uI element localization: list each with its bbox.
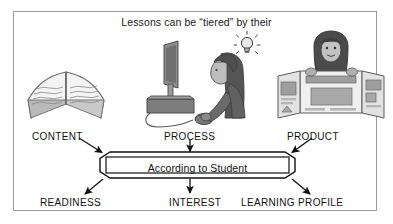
diagram-graphics-layer [0, 0, 393, 224]
tiered-lessons-diagram: Lessons can be “tiered” by their [0, 0, 393, 224]
label-content: CONTENT [32, 131, 83, 142]
label-interest: INTEREST [169, 197, 221, 208]
label-product: PRODUCT [287, 131, 339, 142]
student-at-computer-icon [146, 31, 261, 127]
label-learning-profile: LEARNING PROFILE [241, 197, 343, 208]
open-book-icon [28, 72, 104, 118]
light-bulb-icon [234, 31, 261, 54]
student-with-display-board-icon [278, 31, 384, 118]
label-process: PROCESS [164, 131, 215, 142]
arrow-box-to-readiness [85, 179, 103, 194]
arrow-box-to-learning-profile [292, 179, 310, 194]
center-box-label: According to Student [110, 162, 285, 174]
label-readiness: READINESS [40, 197, 101, 208]
